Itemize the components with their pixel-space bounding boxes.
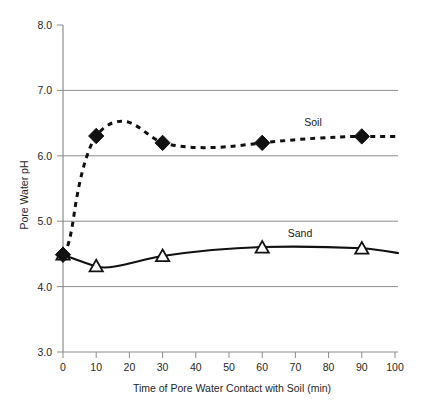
x-tick-labels: 0 10 20 30 40 50 60 70 80 90 100 (60, 361, 404, 373)
y-axis-title: Pore Water pH (18, 160, 30, 229)
soil-marker-60 (255, 135, 270, 150)
y-tick-labels: 8.0 7.0 6.0 5.0 4.0 3.0 (37, 19, 52, 358)
x-tick-label-90: 90 (356, 361, 368, 373)
x-tick-label-70: 70 (290, 361, 302, 373)
x-tick-label-60: 60 (256, 361, 268, 373)
sand-line (63, 247, 398, 268)
soil-marker-90 (354, 129, 369, 144)
x-tick-label-100: 100 (386, 361, 404, 373)
y-tick-label-8-0: 8.0 (37, 19, 52, 31)
x-tick-label-40: 40 (190, 361, 202, 373)
x-tick-label-10: 10 (90, 361, 102, 373)
chart-canvas: 8.0 7.0 6.0 5.0 4.0 3.0 0 10 20 30 40 50… (0, 0, 424, 412)
y-tick-label-4-0: 4.0 (37, 281, 52, 293)
x-tick-label-80: 80 (323, 361, 335, 373)
x-tick-label-30: 30 (157, 361, 169, 373)
y-tick-label-3-0: 3.0 (37, 346, 52, 358)
y-tick-label-5-0: 5.0 (37, 215, 52, 227)
x-tick-label-20: 20 (124, 361, 136, 373)
y-tick-label-6-0: 6.0 (37, 150, 52, 162)
x-tick-label-50: 50 (223, 361, 235, 373)
gridlines (63, 90, 398, 286)
chart-figure: 8.0 7.0 6.0 5.0 4.0 3.0 0 10 20 30 40 50… (0, 0, 424, 412)
soil-line (63, 121, 398, 255)
axes (63, 25, 398, 352)
y-tick-marks (57, 25, 63, 352)
x-tick-label-0: 0 (60, 361, 66, 373)
series-sand: Sand (56, 227, 398, 271)
soil-marker-30 (155, 135, 170, 150)
series-label-soil: Soil (304, 116, 322, 128)
series-soil: Soil (55, 116, 398, 262)
x-tick-marks (63, 352, 395, 358)
series-label-sand: Sand (288, 227, 313, 239)
y-tick-label-7-0: 7.0 (37, 84, 52, 96)
x-axis-title: Time of Pore Water Contact with Soil (mi… (133, 382, 331, 394)
